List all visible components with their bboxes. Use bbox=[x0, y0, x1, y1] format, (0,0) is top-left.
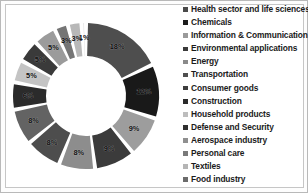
slice-value-label: 5% bbox=[26, 71, 37, 80]
legend-item-label: Environmental applications bbox=[191, 42, 297, 55]
legend-item[interactable]: Information & Communication bbox=[182, 29, 306, 42]
donut-chart-area: 18%12%9%9%8%8%8%6%5%5%5%3%3%1% bbox=[1, 1, 176, 192]
legend-item-label: Construction bbox=[191, 95, 242, 108]
legend-swatch-icon bbox=[183, 138, 188, 143]
legend-item[interactable]: Textiles bbox=[182, 160, 306, 173]
slice-value-label: 9% bbox=[104, 144, 115, 153]
legend-item-label: Household products bbox=[191, 108, 270, 121]
legend-item[interactable]: Household products bbox=[182, 108, 306, 121]
legend-swatch-icon bbox=[183, 33, 188, 38]
slice-value-label: 1% bbox=[79, 33, 90, 42]
legend-item[interactable]: Consumer goods bbox=[182, 82, 306, 95]
chart-figure: 18%12%9%9%8%8%8%6%5%5%5%3%3%1% Health se… bbox=[0, 0, 308, 193]
legend-item[interactable]: Construction bbox=[182, 95, 306, 108]
slice-value-label: 5% bbox=[35, 55, 46, 64]
legend-item-label: Food industry bbox=[191, 173, 245, 186]
legend-item[interactable]: Transportation bbox=[182, 68, 306, 81]
legend-item[interactable]: Health sector and life sciences bbox=[182, 3, 306, 16]
slice-value-label: 12% bbox=[136, 87, 151, 96]
legend-item-label: Textiles bbox=[191, 160, 221, 173]
legend-item-label: Chemicals bbox=[191, 16, 232, 29]
legend-swatch-icon bbox=[183, 73, 188, 78]
legend-swatch-icon bbox=[183, 86, 188, 91]
legend-item[interactable]: Aerospace industry bbox=[182, 134, 306, 147]
slice-value-label: 3% bbox=[61, 36, 72, 45]
legend-swatch-icon bbox=[183, 125, 188, 130]
legend-item[interactable]: Environmental applications bbox=[182, 42, 306, 55]
slice-value-label: 18% bbox=[110, 42, 125, 51]
legend-item[interactable]: Personal care bbox=[182, 147, 306, 160]
legend-swatch-icon bbox=[183, 47, 188, 52]
legend-item-label: Defense and Security bbox=[191, 121, 274, 134]
legend-item-label: Transportation bbox=[191, 68, 248, 81]
legend-item-label: Consumer goods bbox=[191, 82, 258, 95]
legend-item-label: Energy bbox=[191, 55, 219, 68]
legend-swatch-icon bbox=[183, 151, 188, 156]
slice-value-label: 8% bbox=[73, 148, 84, 157]
legend-swatch-icon bbox=[183, 60, 188, 65]
slice-value-label: 8% bbox=[28, 116, 39, 125]
legend-swatch-icon bbox=[183, 99, 188, 104]
legend-item[interactable]: Food industry bbox=[182, 173, 306, 186]
legend-item[interactable]: Chemicals bbox=[182, 16, 306, 29]
legend-item-label: Aerospace industry bbox=[191, 134, 267, 147]
slice-value-label: 8% bbox=[47, 138, 58, 147]
legend-item[interactable]: Defense and Security bbox=[182, 121, 306, 134]
legend-swatch-icon bbox=[183, 112, 188, 117]
legend-swatch-icon bbox=[183, 7, 188, 12]
chart-legend: Health sector and life sciencesChemicals… bbox=[182, 3, 306, 192]
legend-item[interactable]: Energy bbox=[182, 55, 306, 68]
slice-value-label: 9% bbox=[129, 124, 140, 133]
slice-value-label: 6% bbox=[23, 91, 34, 100]
legend-swatch-icon bbox=[183, 177, 188, 182]
donut-chart-svg: 18%12%9%9%8%8%8%6%5%5%5%3%3%1% bbox=[1, 1, 176, 192]
legend-item-label: Personal care bbox=[191, 147, 244, 160]
legend-swatch-icon bbox=[183, 20, 188, 25]
legend-item-label: Information & Communication bbox=[191, 29, 308, 42]
slice-value-label: 5% bbox=[48, 43, 59, 52]
legend-item-label: Health sector and life sciences bbox=[191, 3, 308, 16]
legend-swatch-icon bbox=[183, 164, 188, 169]
